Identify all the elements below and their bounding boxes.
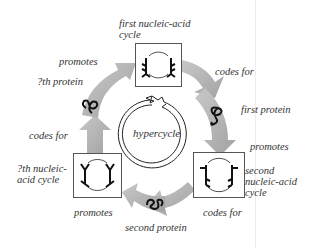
edge-label-first-protein-promotes: promotes [250, 141, 289, 152]
edge-label-nth-codes-for: codes for [29, 130, 68, 141]
second-protein-label: second protein [125, 222, 187, 233]
edge-label-nth-protein-promotes: promotes [59, 56, 98, 67]
nucleic-acid-cycle-icon [74, 154, 121, 197]
arrow-nth-codes-for [79, 115, 111, 153]
second-nucleic-acid-cycle-box [193, 152, 245, 198]
label-line: cycle [245, 187, 297, 198]
label-line: second [245, 165, 297, 176]
label-line: acid cycle [17, 174, 67, 185]
first-nucleic-acid-cycle-box [135, 43, 182, 87]
second-nucleic-acid-cycle-label: second nucleic-acid cycle [245, 165, 297, 198]
label-line: cycle [119, 29, 190, 40]
edge-label-first-codes-for: codes for [215, 66, 254, 77]
first-protein-label: first protein [241, 104, 291, 115]
nth-nucleic-acid-cycle-label: ?th nucleic- acid cycle [17, 163, 67, 185]
label-line: ?th nucleic- [17, 163, 67, 174]
hypercycle-diagram: first nucleic-acid cycle codes for first… [0, 0, 314, 248]
hypercycle-label: hypercycle [133, 128, 180, 139]
edge-label-second-protein-promotes: promotes [74, 207, 113, 218]
nth-nucleic-acid-cycle-box [73, 153, 122, 198]
label-line: nucleic-acid [245, 176, 297, 187]
edge-label-second-codes-for: codes for [203, 207, 242, 218]
nth-protein-label: ?th protein [37, 76, 83, 87]
nucleic-acid-cycle-icon [136, 44, 181, 86]
label-line: first nucleic-acid [119, 18, 190, 29]
first-nucleic-acid-cycle-label: first nucleic-acid cycle [119, 18, 190, 40]
nucleic-acid-cycle-icon [194, 153, 244, 197]
